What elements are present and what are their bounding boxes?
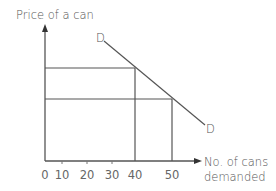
demand-curve <box>104 41 205 125</box>
tick-label-0: 0 <box>41 168 48 182</box>
demand-chart: D D Price of a can No. of cans demanded … <box>0 0 276 191</box>
y-axis-title: Price of a can <box>16 8 94 22</box>
y-axis-arrow-icon <box>42 24 48 32</box>
tick-label-30: 30 <box>105 168 120 182</box>
x-axis-title-line2: demanded <box>204 170 266 184</box>
tick-label-20: 20 <box>80 168 95 182</box>
tick-label-50: 50 <box>165 168 180 182</box>
tick-label-10: 10 <box>55 168 70 182</box>
x-axis-title-line1: No. of cans <box>204 155 268 169</box>
curve-label-bottom: D <box>206 122 215 136</box>
tick-label-40: 40 <box>128 168 143 182</box>
curve-label-top: D <box>96 31 105 45</box>
x-axis-arrow-icon <box>194 158 202 164</box>
